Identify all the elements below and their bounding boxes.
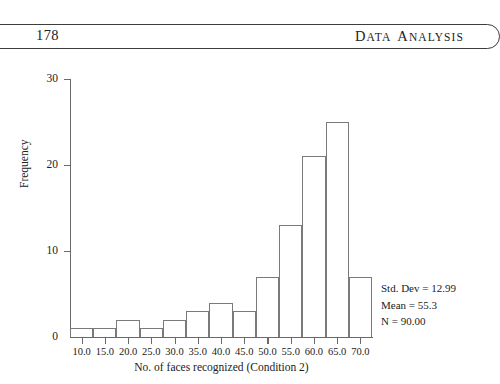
- running-head-title-a: A: [397, 28, 409, 44]
- histogram-bar: [279, 225, 302, 337]
- statistics-annotation: Std. Dev = 12.99 Mean = 55.3 N = 90.00: [381, 280, 456, 330]
- histogram-bar: [302, 156, 325, 337]
- x-axis-tick: [221, 338, 222, 344]
- running-head-title-nalysis: NALYSIS: [409, 31, 464, 43]
- n-text: N = 90.00: [381, 313, 456, 330]
- x-axis-tick: [267, 338, 268, 344]
- running-head-title-d: D: [355, 28, 367, 44]
- y-axis-tick: [64, 79, 70, 80]
- y-axis-tick: [64, 251, 70, 252]
- x-axis-tick: [82, 338, 83, 344]
- histogram-bar: [70, 328, 93, 337]
- running-head-title: DATAANALYSIS: [355, 28, 464, 45]
- histogram-bar: [116, 320, 139, 337]
- x-axis-tick: [198, 338, 199, 344]
- y-axis-tick-label: 20: [28, 158, 58, 170]
- x-axis-tick: [314, 338, 315, 344]
- x-axis-tick-label: 70.0: [343, 346, 377, 357]
- x-axis-tick: [360, 338, 361, 344]
- y-axis-tick-label: 10: [28, 244, 58, 256]
- histogram-bar: [186, 311, 209, 337]
- x-axis-tick: [128, 338, 129, 344]
- x-axis-title: No. of faces recognized (Condition 2): [70, 361, 373, 373]
- histogram-bar: [349, 277, 372, 337]
- y-axis-tick-label: 30: [28, 72, 58, 84]
- histogram-bar: [209, 303, 232, 337]
- running-head-title-ata: ATA: [367, 31, 392, 43]
- page-number: 178: [36, 27, 59, 44]
- x-axis-tick: [105, 338, 106, 344]
- mean-text: Mean = 55.3: [381, 297, 456, 314]
- x-axis-tick: [151, 338, 152, 344]
- x-axis-tick: [244, 338, 245, 344]
- histogram-figure: Frequency No. of faces recognized (Condi…: [0, 58, 486, 384]
- x-axis-tick: [337, 338, 338, 344]
- histogram-bar: [140, 328, 163, 337]
- histogram-bar: [326, 122, 349, 337]
- histogram-bar: [93, 328, 116, 337]
- std-dev-text: Std. Dev = 12.99: [381, 280, 456, 297]
- x-axis-tick: [175, 338, 176, 344]
- y-axis-tick-label: 0: [28, 330, 58, 342]
- y-axis-tick: [64, 165, 70, 166]
- x-axis-tick: [291, 338, 292, 344]
- histogram-bar: [256, 277, 279, 337]
- histogram-bar: [233, 311, 256, 337]
- histogram-bar: [163, 320, 186, 337]
